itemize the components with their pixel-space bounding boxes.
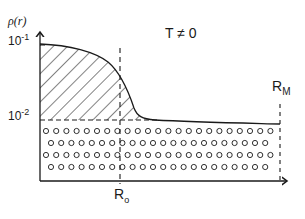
- marker-subscript: M: [282, 86, 290, 97]
- tick-base: 10: [8, 109, 21, 123]
- marker-base: R: [272, 78, 282, 94]
- tick-exponent: -2: [21, 107, 29, 117]
- y-tick-label-1: 10-1: [8, 34, 29, 48]
- y-axis-label: ρ(r): [8, 14, 26, 29]
- tick-base: 10: [8, 34, 21, 48]
- marker-base: R: [114, 186, 124, 202]
- hatched-region: [40, 40, 155, 122]
- r0-label: Ro: [114, 186, 129, 205]
- rm-label: RM: [272, 78, 290, 97]
- dotted-region: [43, 128, 273, 169]
- marker-subscript: o: [124, 195, 129, 205]
- temperature-condition-label: T ≠ 0: [165, 25, 197, 41]
- density-profile-diagram: [0, 0, 305, 219]
- tick-exponent: -1: [21, 32, 29, 42]
- y-tick-label-2: 10-2: [8, 109, 29, 123]
